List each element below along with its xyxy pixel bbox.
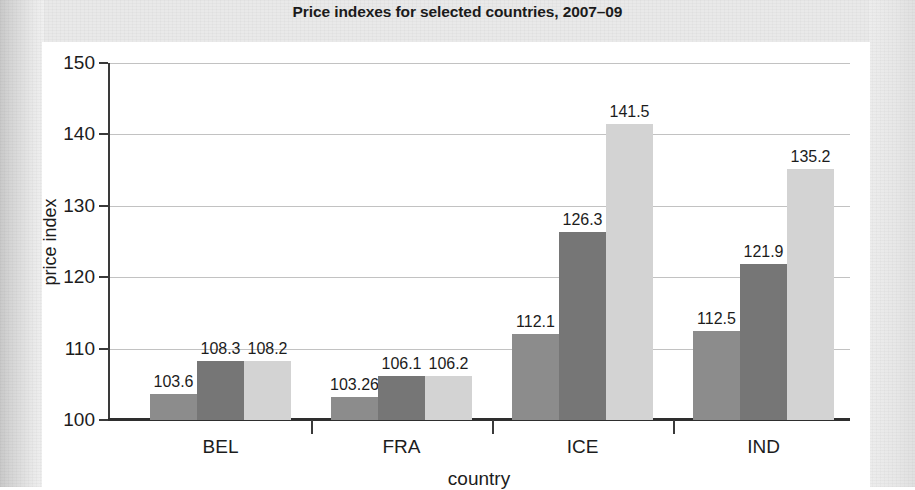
bar-value-label: 126.3 bbox=[562, 211, 602, 229]
bar: 126.3 bbox=[559, 232, 606, 420]
bar-value-label: 108.2 bbox=[247, 340, 287, 358]
y-axis-tick bbox=[99, 133, 108, 135]
x-axis-category-label: ICE bbox=[567, 436, 599, 458]
bar-value-label: 112.1 bbox=[516, 313, 555, 331]
bar: 135.2 bbox=[787, 169, 834, 420]
x-axis-tick bbox=[673, 420, 675, 434]
bar: 108.3 bbox=[197, 361, 244, 420]
bar: 108.2 bbox=[244, 361, 291, 420]
bar: 121.9 bbox=[740, 264, 787, 420]
bar-value-label: 103.26 bbox=[330, 376, 379, 394]
y-axis-title: price index bbox=[40, 198, 61, 285]
bar-value-label: 108.3 bbox=[200, 340, 240, 358]
y-axis-tick bbox=[99, 62, 108, 64]
x-axis-tick bbox=[492, 420, 494, 434]
y-axis-tick-label: 110 bbox=[65, 338, 95, 360]
y-axis-tick-label: 120 bbox=[63, 266, 95, 288]
chart-title: Price indexes for selected countries, 20… bbox=[0, 3, 915, 21]
page-right-gutter bbox=[869, 0, 915, 487]
x-axis-category-label: BEL bbox=[203, 436, 239, 458]
bar: 103.26 bbox=[331, 397, 378, 420]
figure-panel: 150140130120110100 price index 103.6108.… bbox=[42, 42, 870, 487]
bar-value-label: 141.5 bbox=[609, 103, 649, 121]
bar: 106.1 bbox=[378, 376, 425, 420]
page-left-gutter bbox=[0, 0, 44, 487]
bar: 112.5 bbox=[693, 331, 740, 420]
x-axis-title: country bbox=[448, 468, 510, 490]
bar-value-label: 121.9 bbox=[743, 243, 783, 261]
bar: 141.5 bbox=[606, 124, 653, 420]
bar-group: 112.1126.3141.5 bbox=[512, 63, 653, 420]
y-axis-tick-label: 130 bbox=[63, 195, 95, 217]
bar-value-label: 106.1 bbox=[381, 355, 421, 373]
bar-value-label: 106.2 bbox=[428, 355, 468, 373]
bar-value-label: 103.6 bbox=[153, 373, 193, 391]
y-axis-tick bbox=[99, 276, 108, 278]
y-axis-line bbox=[108, 63, 110, 420]
plot-area: 150140130120110100 price index 103.6108.… bbox=[108, 63, 850, 420]
x-axis-category-label: IND bbox=[747, 436, 780, 458]
bar-group: 103.6108.3108.2 bbox=[150, 63, 291, 420]
bar: 112.1 bbox=[512, 334, 559, 420]
x-axis-tick bbox=[311, 420, 313, 434]
x-axis-category-label: FRA bbox=[383, 436, 421, 458]
bar: 106.2 bbox=[425, 376, 472, 420]
y-axis-tick bbox=[99, 205, 108, 207]
bar-group: 112.5121.9135.2 bbox=[693, 63, 834, 420]
y-axis-tick-label: 100 bbox=[63, 409, 95, 431]
bar-value-label: 135.2 bbox=[790, 148, 830, 166]
y-axis-tick bbox=[99, 348, 108, 350]
y-axis-tick-label: 150 bbox=[63, 52, 95, 74]
bar-group: 103.26106.1106.2 bbox=[331, 63, 472, 420]
bar: 103.6 bbox=[150, 394, 197, 420]
y-axis-tick-label: 140 bbox=[63, 123, 95, 145]
bar-value-label: 112.5 bbox=[697, 310, 736, 328]
y-axis-tick bbox=[99, 419, 108, 421]
